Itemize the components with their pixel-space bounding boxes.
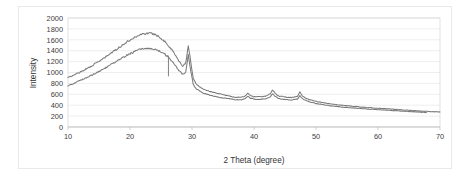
y-axis-title: Intensity xyxy=(29,57,38,88)
series-line-lower xyxy=(68,48,427,113)
x-tick-label: 50 xyxy=(312,132,320,141)
x-tick-label: 70 xyxy=(436,132,444,141)
y-tick-label: 2000 xyxy=(47,14,63,23)
x-axis-title: 2 Theta (degree) xyxy=(224,156,285,165)
y-tick-label: 0 xyxy=(59,123,63,132)
y-tick-label: 1000 xyxy=(47,68,63,77)
x-axis-tick-labels: 10203040506070 xyxy=(64,132,444,141)
x-tick-label: 30 xyxy=(188,132,196,141)
y-tick-label: 1400 xyxy=(47,46,63,55)
y-tick-label: 800 xyxy=(51,79,63,88)
y-tick-label: 200 xyxy=(51,112,63,121)
y-tick-label: 1800 xyxy=(47,25,63,34)
gridlines xyxy=(68,18,440,127)
xrd-chart: 0200400600800100012001400160018002000 10… xyxy=(0,0,475,175)
y-tick-label: 1600 xyxy=(47,36,63,45)
y-tick-label: 1200 xyxy=(47,57,63,66)
y-tick-label: 400 xyxy=(51,101,63,110)
x-tick-label: 60 xyxy=(374,132,382,141)
x-tick-label: 20 xyxy=(126,132,134,141)
x-tick-label: 10 xyxy=(64,132,72,141)
y-axis-tick-labels: 0200400600800100012001400160018002000 xyxy=(47,14,63,132)
y-tick-label: 600 xyxy=(51,90,63,99)
plot-area-border xyxy=(68,18,440,130)
x-tick-label: 40 xyxy=(250,132,258,141)
